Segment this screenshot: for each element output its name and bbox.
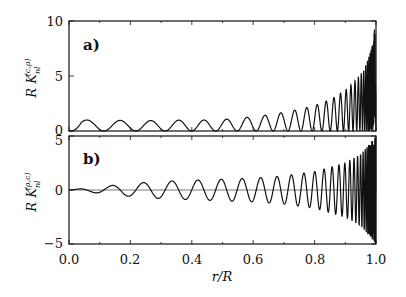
y-axis-label-b: R Knl(ρ,c) (23, 172, 42, 212)
yb-tick-neg5: −5 (44, 236, 63, 251)
panel-a-label: a) (83, 36, 100, 54)
x-tick-0.4: 0.4 (182, 252, 203, 267)
panel-b-label: b) (83, 150, 101, 168)
yb-tick-0: 0 (55, 183, 63, 198)
curve-a (69, 30, 376, 131)
x-tick-0: 0.0 (59, 252, 80, 267)
figure: 10 5 0 5 0 −5 0.0 0.2 0.4 0.6 0.8 1.0 r/… (0, 0, 406, 297)
x-axis-label: r/R (212, 269, 233, 284)
x-tick-0.2: 0.2 (120, 252, 141, 267)
x-tick-0.6: 0.6 (243, 252, 264, 267)
ya-tick-5: 5 (55, 69, 63, 84)
svg-text:R Knl(ρ,c): R Knl(ρ,c) (23, 172, 42, 212)
x-tick-1.0: 1.0 (366, 252, 387, 267)
axis-ticks (69, 21, 376, 244)
y-axis-label-a: R Knl(c,ρ) (23, 58, 42, 98)
ya-tick-10: 10 (46, 14, 63, 29)
x-tick-0.8: 0.8 (305, 252, 326, 267)
panel-a-frame (69, 21, 376, 131)
svg-text:R Knl(c,ρ): R Knl(c,ρ) (23, 58, 42, 98)
yb-tick-5: 5 (55, 133, 63, 148)
